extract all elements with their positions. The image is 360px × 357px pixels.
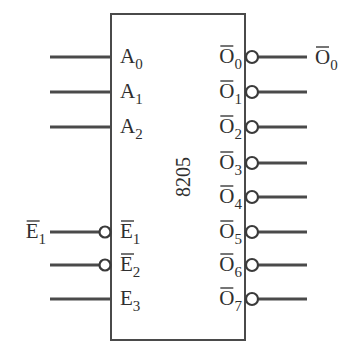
inversion-bubble-icon <box>246 86 258 98</box>
signal-label-o0-text: O0 <box>315 45 338 73</box>
signal-label-e1-text: E1 <box>26 219 46 247</box>
input-pin-a0: A0 <box>50 44 143 72</box>
pin-label-o5: O5 <box>219 219 242 247</box>
inversion-bubble-icon <box>246 157 258 169</box>
pin-label-e1: E1 <box>120 219 140 247</box>
pin-label-o6-text: O6 <box>219 252 242 280</box>
inversion-bubble-icon <box>100 227 111 238</box>
input-pin-a2: A2 <box>50 114 143 142</box>
pin-label-e3-text: E3 <box>120 286 140 314</box>
input-pin-a1: A1 <box>50 79 143 107</box>
pin-label-o1: O1 <box>219 79 242 107</box>
pin-label-o6: O6 <box>219 252 242 280</box>
pin-label-a2: A2 <box>120 114 143 142</box>
chip-part-number: 8205 <box>172 157 194 197</box>
pin-label-o2-text: O2 <box>219 114 242 142</box>
pin-label-o3-text: O3 <box>219 150 242 178</box>
pin-label-e3: E3 <box>120 286 140 314</box>
pin-label-a0-text: A0 <box>120 44 143 72</box>
inversion-bubble-icon <box>100 260 111 271</box>
inversion-bubble-icon <box>246 226 258 238</box>
inversion-bubble-icon <box>246 51 258 63</box>
pin-label-a0: A0 <box>120 44 143 72</box>
signal-label-e1: E1 <box>26 219 46 247</box>
inversion-bubble-icon <box>246 121 258 133</box>
pin-label-e2-text: E2 <box>120 252 140 280</box>
pin-label-o3: O3 <box>219 150 242 178</box>
pin-label-o2: O2 <box>219 114 242 142</box>
pin-label-e1-text: E1 <box>120 219 140 247</box>
decoder-diagram: 8205 A0A1A2E1E1E2E3 O0O0O1O2O3O4O5O6O7 <box>0 0 360 357</box>
output-pin-o0: O0O0 <box>219 44 337 73</box>
pin-label-a1-text: A1 <box>120 79 143 107</box>
output-pin-o7: O7 <box>219 286 307 314</box>
output-pin-o6: O6 <box>219 252 307 280</box>
output-pin-o4: O4 <box>219 184 307 212</box>
pin-label-o1-text: O1 <box>219 79 242 107</box>
pin-label-o0: O0 <box>219 44 242 72</box>
inversion-bubble-icon <box>246 259 258 271</box>
output-pin-o5: O5 <box>219 219 307 247</box>
pin-label-o5-text: O5 <box>219 219 242 247</box>
input-pins: A0A1A2E1E1E2E3 <box>26 44 143 314</box>
output-pin-o2: O2 <box>219 114 307 142</box>
signal-label-o0: O0 <box>315 45 338 73</box>
input-pin-e3: E3 <box>50 286 140 314</box>
output-pin-o1: O1 <box>219 79 307 107</box>
inversion-bubble-icon <box>246 293 258 305</box>
pin-label-o4: O4 <box>219 184 242 212</box>
pin-label-o7-text: O7 <box>219 286 242 314</box>
output-pin-o3: O3 <box>219 150 307 178</box>
pin-label-o0-text: O0 <box>219 44 242 72</box>
pin-label-o4-text: O4 <box>219 184 242 212</box>
pin-label-e2: E2 <box>120 252 140 280</box>
input-pin-e2: E2 <box>50 252 140 280</box>
input-pin-e1: E1E1 <box>26 219 141 247</box>
output-pins: O0O0O1O2O3O4O5O6O7 <box>219 44 337 314</box>
pin-label-a2-text: A2 <box>120 114 143 142</box>
inversion-bubble-icon <box>246 191 258 203</box>
pin-label-o7: O7 <box>219 286 242 314</box>
pin-label-a1: A1 <box>120 79 143 107</box>
